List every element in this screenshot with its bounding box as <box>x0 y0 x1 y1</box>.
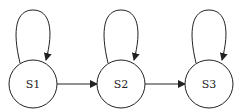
self-loop-s1 <box>16 10 50 63</box>
state-s3: S3 <box>185 60 233 108</box>
state-s2: S2 <box>97 60 145 108</box>
state-diagram: S1 S2 S3 <box>0 0 240 112</box>
state-s1: S1 <box>9 60 57 108</box>
self-loop-s2 <box>104 10 138 63</box>
self-loop-s3 <box>192 10 226 63</box>
state-label: S3 <box>202 78 217 91</box>
state-label: S2 <box>114 78 129 91</box>
state-label: S1 <box>26 78 41 91</box>
